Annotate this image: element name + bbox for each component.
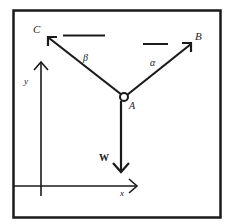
knot-point-a <box>120 93 128 101</box>
force-diagram: C B A β α W x y <box>0 0 232 224</box>
label-point-b: B <box>195 30 202 42</box>
label-point-a: A <box>128 100 136 111</box>
label-angle-alpha: α <box>150 57 156 68</box>
label-axis-x: x <box>119 188 124 198</box>
tension-arrow-b <box>127 43 191 95</box>
label-axis-y: y <box>23 76 28 86</box>
label-weight: W <box>99 152 109 163</box>
y-axis <box>34 62 48 196</box>
weight-arrow <box>113 101 129 172</box>
tension-arrow-c <box>48 37 122 95</box>
x-axis <box>14 179 137 193</box>
label-point-c: C <box>33 23 41 35</box>
label-angle-beta: β <box>82 52 88 63</box>
